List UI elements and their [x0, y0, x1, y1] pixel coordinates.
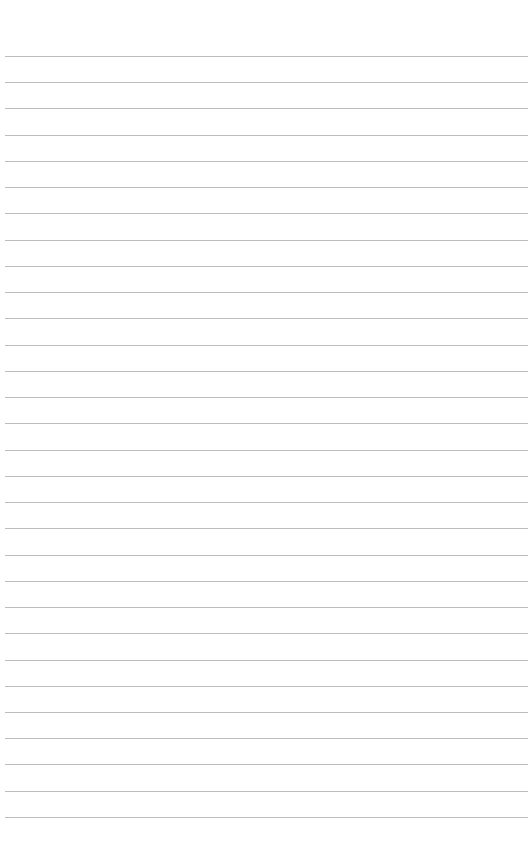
ruled-line [5, 607, 528, 608]
ruled-line [5, 345, 528, 346]
ruled-line [5, 82, 528, 83]
ruled-line [5, 292, 528, 293]
ruled-line [5, 660, 528, 661]
ruled-line [5, 187, 528, 188]
ruled-line [5, 397, 528, 398]
ruled-line [5, 633, 528, 634]
ruled-line [5, 450, 528, 451]
ruled-line [5, 817, 528, 818]
ruled-line [5, 213, 528, 214]
ruled-line [5, 161, 528, 162]
ruled-line [5, 476, 528, 477]
ruled-line [5, 686, 528, 687]
ruled-line [5, 502, 528, 503]
ruled-line [5, 712, 528, 713]
ruled-line [5, 266, 528, 267]
ruled-line [5, 555, 528, 556]
ruled-line [5, 738, 528, 739]
ruled-line [5, 764, 528, 765]
ruled-line [5, 423, 528, 424]
lined-paper-page [0, 0, 530, 865]
ruled-line [5, 581, 528, 582]
ruled-line [5, 528, 528, 529]
ruled-line [5, 135, 528, 136]
ruled-line [5, 791, 528, 792]
ruled-line [5, 240, 528, 241]
ruled-line [5, 371, 528, 372]
ruled-line [5, 108, 528, 109]
ruled-line [5, 56, 528, 57]
ruled-line [5, 318, 528, 319]
